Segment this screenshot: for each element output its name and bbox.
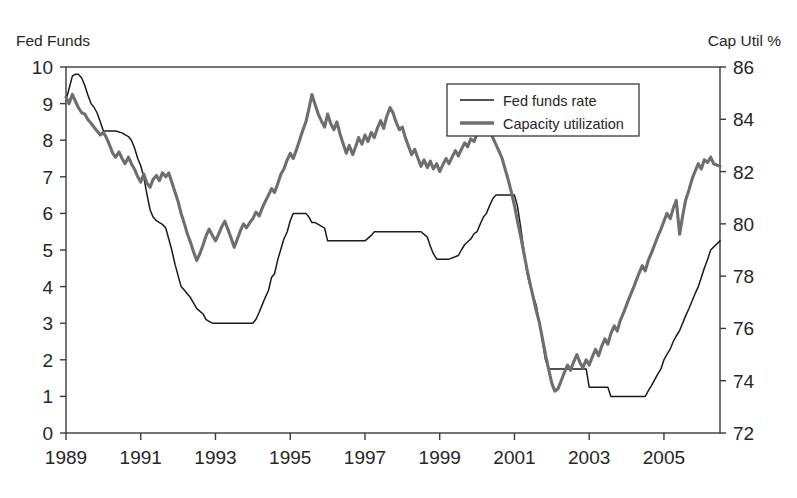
x-axis: 198919911993199519971999200120032005 <box>45 433 685 468</box>
left-axis-tick-label: 7 <box>42 167 53 188</box>
right-axis-tick-label: 86 <box>733 57 754 78</box>
right-axis-tick-label: 72 <box>733 423 754 444</box>
left-axis-tick-label: 3 <box>42 313 53 334</box>
x-axis-tick-label: 2003 <box>568 447 610 468</box>
x-axis-tick-label: 2001 <box>493 447 535 468</box>
left-axis-tick-label: 9 <box>42 94 53 115</box>
left-axis-tick-label: 10 <box>32 57 53 78</box>
legend-label: Capacity utilization <box>503 116 624 132</box>
right-axis-tick-label: 82 <box>733 162 754 183</box>
left-axis-tick-label: 5 <box>42 240 53 261</box>
chart-background <box>0 0 797 498</box>
left-axis-title: Fed Funds <box>16 32 90 49</box>
x-axis-tick-label: 2005 <box>643 447 685 468</box>
x-axis-tick-label: 1989 <box>45 447 87 468</box>
left-axis-tick-label: 8 <box>42 130 53 151</box>
x-axis-tick-label: 1997 <box>344 447 386 468</box>
right-axis-tick-label: 80 <box>733 214 754 235</box>
right-axis-tick-label: 76 <box>733 318 754 339</box>
left-axis-tick-label: 4 <box>42 277 53 298</box>
x-axis-tick-label: 1999 <box>419 447 461 468</box>
right-axis-tick-label: 84 <box>733 109 755 130</box>
dual-axis-line-chart: Fed Funds Cap Util % 012345678910 727476… <box>0 0 797 498</box>
left-axis-tick-label: 1 <box>42 386 53 407</box>
x-axis-tick-label: 1993 <box>194 447 236 468</box>
chart-legend: Fed funds rateCapacity utilization <box>447 84 639 136</box>
chart-container: Fed Funds Cap Util % 012345678910 727476… <box>0 0 797 498</box>
right-axis-title: Cap Util % <box>708 32 781 49</box>
left-axis-tick-label: 2 <box>42 350 53 371</box>
right-axis-tick-label: 74 <box>733 371 755 392</box>
left-axis-tick-label: 0 <box>42 423 53 444</box>
legend-label: Fed funds rate <box>503 93 597 109</box>
x-axis-tick-label: 1995 <box>269 447 311 468</box>
right-axis-tick-label: 78 <box>733 266 754 287</box>
left-axis-tick-label: 6 <box>42 203 53 224</box>
x-axis-tick-label: 1991 <box>120 447 162 468</box>
